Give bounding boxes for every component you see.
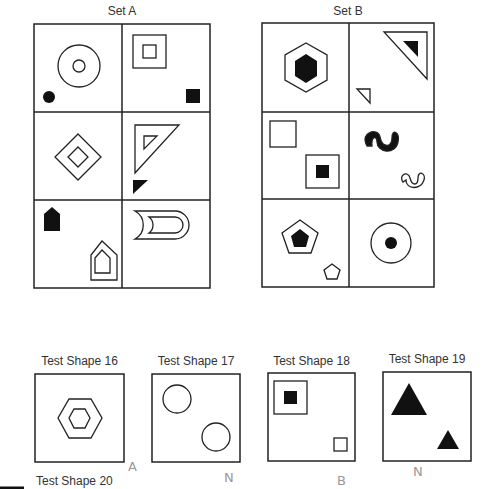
set-b-cell-4	[365, 132, 424, 188]
test-shape-17-label: Test Shape 17	[152, 354, 240, 368]
set-b-cell-5	[282, 220, 340, 279]
answer-18: B	[337, 473, 346, 488]
answer-16: A	[128, 459, 137, 474]
set-a-cell-6	[135, 211, 189, 239]
test-shape-18-figure	[268, 373, 355, 461]
answer-17: N	[224, 470, 234, 485]
set-a-cell-1	[43, 45, 100, 103]
test-shape-20-label: Test Shape 20	[36, 474, 126, 488]
test-shape-16-label: Test Shape 16	[35, 354, 124, 368]
set-b-cell-3	[270, 121, 339, 188]
set-b-cell-6	[371, 223, 411, 263]
set-a-cell-5	[44, 207, 117, 280]
set-a-cell-4	[133, 125, 179, 194]
answer-19: N	[413, 464, 423, 479]
test-shape-19-figure	[383, 372, 471, 461]
set-a-cell-2	[133, 35, 200, 103]
set-a-cell-3	[55, 134, 101, 180]
test-shape-16-figure	[35, 374, 124, 462]
set-b-cell-2	[357, 32, 427, 103]
figure-canvas	[0, 0, 493, 489]
test-shape-19-label: Test Shape 19	[383, 352, 471, 366]
test-shape-18-label: Test Shape 18	[268, 354, 355, 368]
set-b-grid	[262, 23, 434, 287]
set-b-cell-1	[285, 43, 327, 92]
test-shape-17-figure	[152, 374, 240, 462]
set-a-grid	[34, 24, 210, 288]
